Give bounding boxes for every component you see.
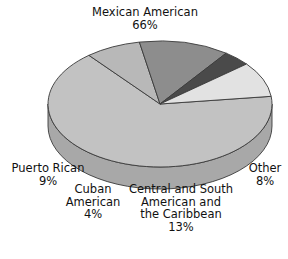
slice-label-other: Other 8% (243, 162, 287, 187)
slice-label-puerto-rican-name: Puerto Rican (2, 162, 94, 175)
slice-label-cuban-american-value: 4% (56, 208, 130, 221)
slice-label-mexican-american-value: 66% (86, 19, 204, 32)
slice-label-cuban-american-name-1: Cuban (56, 183, 130, 196)
slice-label-mexican-american-name: Mexican American (86, 6, 204, 19)
slice-label-central-south-american-value: 13% (128, 221, 234, 234)
slice-label-other-name: Other (243, 162, 287, 175)
slice-label-central-south-american-name-3: the Caribbean (128, 208, 234, 221)
slice-label-mexican-american: Mexican American 66% (86, 6, 204, 31)
slice-label-cuban-american: Cuban American 4% (56, 183, 130, 221)
slice-label-central-south-american-name-1: Central and South (128, 183, 234, 196)
slice-label-other-value: 8% (243, 175, 287, 188)
pie-chart-figure: Mexican American 66% Puerto Rican 9% Cub… (0, 0, 288, 259)
slice-label-central-south-american: Central and South American and the Carib… (128, 183, 234, 233)
